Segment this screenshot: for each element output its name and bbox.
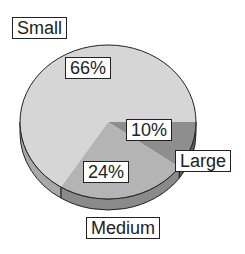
slice-label-medium: Medium	[86, 217, 160, 239]
slice-value-small: 66%	[65, 57, 111, 79]
slice-value-large: 10%	[126, 119, 172, 141]
slice-label-small: Small	[12, 17, 67, 39]
slice-value-medium: 24%	[83, 161, 129, 183]
slice-label-large: Large	[175, 150, 231, 172]
